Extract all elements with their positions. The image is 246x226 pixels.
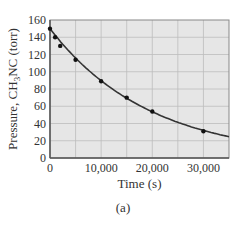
- y-tick-label: 40: [34, 117, 46, 131]
- y-tick-label: 60: [34, 99, 46, 113]
- data-point: [58, 44, 62, 48]
- y-tick-label: 120: [28, 48, 46, 62]
- x-tick-label: 20,000: [136, 161, 169, 175]
- data-point: [99, 79, 103, 83]
- y-tick-label: 160: [28, 13, 46, 27]
- data-point: [201, 129, 205, 133]
- x-tick-label: 10,000: [85, 161, 118, 175]
- data-point: [150, 109, 154, 113]
- x-axis-label: Time (s): [118, 176, 162, 191]
- data-point: [73, 57, 77, 61]
- figure-caption: (a): [0, 200, 246, 216]
- y-tick-label: 80: [34, 82, 46, 96]
- data-point: [48, 26, 52, 30]
- x-tick-label: 30,000: [187, 161, 220, 175]
- y-tick-label: 100: [28, 65, 46, 79]
- data-point: [53, 35, 57, 39]
- y-tick-label: 140: [28, 30, 46, 44]
- y-tick-label: 20: [34, 134, 46, 148]
- data-point: [125, 95, 129, 99]
- x-tick-label: 0: [47, 161, 53, 175]
- pressure-time-chart: 020406080100120140160010,00020,00030,000…: [0, 0, 246, 200]
- y-tick-label: 0: [40, 151, 46, 165]
- y-axis-label: Pressure, CH3NC (torr): [5, 28, 22, 150]
